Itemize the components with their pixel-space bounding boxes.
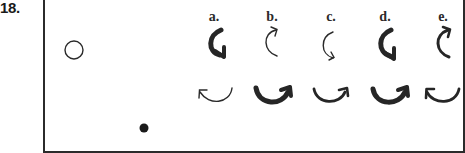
option-c-top-arrow-icon [323, 32, 334, 60]
option-d-top-arrow-icon [381, 30, 394, 59]
option-e-top-arrow-icon [438, 27, 450, 57]
option-b-bottom-arrow-icon [256, 87, 291, 102]
option-c-label: c. [326, 9, 336, 25]
option-c-bottom-arrow-icon [314, 88, 348, 101]
option-e-label: e. [438, 9, 448, 25]
option-a-bottom-arrow-icon [199, 88, 232, 101]
option-e-bottom-arrow-icon [426, 89, 459, 101]
filled-dot [140, 124, 149, 133]
open-circle [65, 41, 83, 59]
option-d-label: d. [379, 9, 390, 25]
option-d-bottom-arrow-icon [373, 87, 408, 102]
option-a-top-arrow-icon [211, 30, 224, 57]
option-a-label: a. [209, 9, 220, 25]
option-b-top-arrow-icon [266, 27, 277, 56]
option-b-label: b. [266, 9, 277, 25]
